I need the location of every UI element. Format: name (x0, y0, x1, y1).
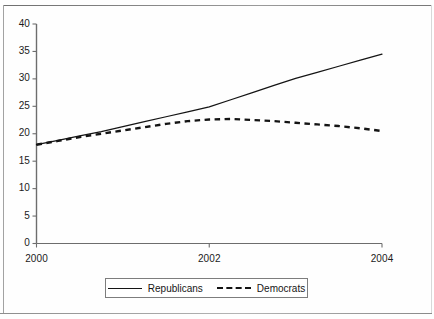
y-tick-label: 40 (8, 18, 30, 29)
y-tick-label: 35 (8, 45, 30, 56)
x-tick-label: 2004 (362, 253, 402, 264)
y-tick-label: 5 (8, 210, 30, 221)
chart-page: 0510152025303540 200020022004 Republican… (0, 0, 434, 319)
legend-swatch-dashed-line-icon (217, 287, 251, 289)
y-tick-label: 25 (8, 100, 30, 111)
legend-label-republicans: Republicans (148, 283, 203, 294)
series-line-democrats (37, 119, 383, 145)
legend-label-democrats: Democrats (257, 283, 305, 294)
legend-swatch-solid-line-icon (108, 288, 142, 289)
x-tick-label: 2000 (17, 253, 57, 264)
x-axis-ticks (37, 244, 383, 248)
y-tick-label: 20 (8, 127, 30, 138)
y-tick-label: 15 (8, 155, 30, 166)
y-tick-label: 10 (8, 182, 30, 193)
chart-legend[interactable]: Republicans Democrats (105, 278, 308, 298)
legend-item-republicans[interactable]: Republicans (108, 283, 203, 294)
series-line-republicans (37, 54, 383, 145)
y-tick-label: 0 (8, 237, 30, 248)
legend-item-democrats[interactable]: Democrats (217, 283, 305, 294)
x-tick-label: 2002 (189, 253, 229, 264)
y-tick-label: 30 (8, 72, 30, 83)
line-chart-plot (0, 0, 434, 319)
